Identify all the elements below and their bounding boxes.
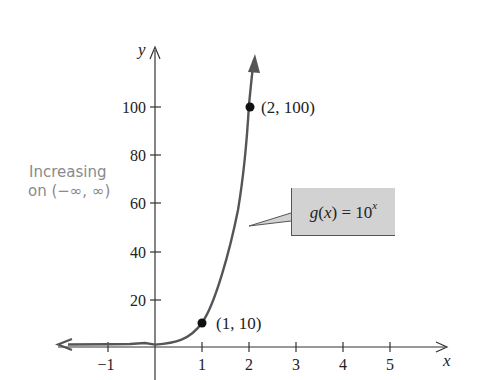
x-tick-label-neg1: −1: [97, 356, 114, 373]
x-tick-label-4: 4: [339, 356, 347, 373]
point-1-10: [198, 319, 207, 328]
y-tick-label-80: 80: [130, 147, 146, 164]
y-tick-label-100: 100: [122, 99, 146, 116]
y-tick-label-60: 60: [130, 195, 146, 212]
point-label-1-10: (1, 10): [216, 314, 261, 333]
y-axis-label: y: [136, 40, 146, 59]
x-tick-label-2: 2: [245, 356, 253, 373]
x-tick-label-5: 5: [386, 356, 394, 373]
x-axis-label: x: [442, 351, 451, 370]
increasing-annotation: Increasing on (−∞, ∞): [28, 163, 110, 201]
point-2-100: [246, 103, 255, 112]
curve-top-arrow-icon: [248, 54, 260, 73]
x-tick-label-1: 1: [198, 356, 206, 373]
y-tick-label-20: 20: [130, 292, 146, 309]
y-tick-label-40: 40: [130, 244, 146, 261]
increasing-annotation-line1: Increasing: [28, 163, 110, 182]
x-tick-label-3: 3: [292, 356, 300, 373]
function-label-callout: g(x) = 10x: [291, 188, 395, 236]
callout-text: g(x) = 10x: [310, 201, 377, 223]
point-label-2-100: (2, 100): [261, 98, 315, 117]
callout-pointer: [249, 213, 291, 226]
exponential-curve: [68, 60, 254, 345]
increasing-annotation-line2: on (−∞, ∞): [28, 182, 110, 201]
